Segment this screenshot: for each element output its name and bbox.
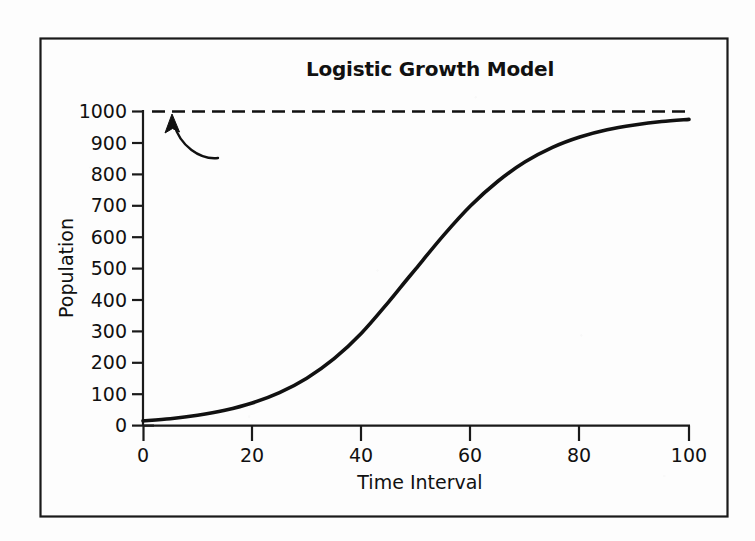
x-tick-label: 0 bbox=[137, 444, 149, 466]
x-tick-label: 20 bbox=[240, 444, 264, 466]
y-tick-label: 0 bbox=[115, 414, 127, 436]
y-tick-label: 200 bbox=[91, 351, 127, 373]
y-tick-label: 500 bbox=[91, 257, 127, 279]
x-axis-label: Time Interval bbox=[356, 471, 482, 493]
y-tick-label: 1000 bbox=[79, 100, 127, 122]
arrow-curve-icon bbox=[174, 124, 218, 158]
y-tick-label: 100 bbox=[91, 383, 127, 405]
y-tick-label: 800 bbox=[91, 163, 127, 185]
x-tick-label: 100 bbox=[671, 444, 707, 466]
x-tick-label: 40 bbox=[349, 444, 373, 466]
x-tick-labels: 0 20 40 60 80 100 bbox=[137, 444, 707, 466]
y-tick-label: 400 bbox=[91, 289, 127, 311]
figure-container: Logistic Growth Model 1000 900 800 700 6… bbox=[0, 0, 755, 541]
x-axis-ticks bbox=[144, 426, 690, 441]
chart-title: Logistic Growth Model bbox=[306, 57, 554, 81]
chart-canvas: Logistic Growth Model 1000 900 800 700 6… bbox=[0, 0, 755, 541]
x-tick-label: 80 bbox=[567, 444, 591, 466]
y-tick-labels: 1000 900 800 700 600 500 400 300 200 100… bbox=[79, 100, 127, 436]
asymptote-arrow-annotation bbox=[165, 114, 218, 158]
y-tick-label: 900 bbox=[91, 132, 127, 154]
y-tick-label: 700 bbox=[91, 194, 127, 216]
y-axis-label: Population bbox=[55, 218, 77, 318]
logistic-growth-curve bbox=[143, 119, 689, 421]
y-tick-label: 300 bbox=[91, 320, 127, 342]
y-tick-label: 600 bbox=[91, 226, 127, 248]
x-tick-label: 60 bbox=[458, 444, 482, 466]
arrow-head-icon bbox=[165, 114, 180, 133]
